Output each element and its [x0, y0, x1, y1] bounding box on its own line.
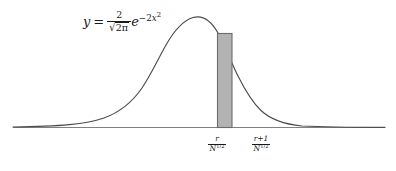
equation-equals: =	[93, 14, 104, 29]
tick-label-left: r N1/2	[198, 135, 236, 153]
tick-right-denominator-exponent: 1/2	[260, 143, 268, 149]
fraction-numerator: 2	[107, 10, 131, 20]
shaded-strip	[218, 34, 233, 128]
tick-right-denominator: N1/2	[252, 145, 271, 153]
equation-fraction: 2 √2π	[107, 10, 131, 34]
gaussian-curve	[13, 17, 385, 128]
tick-left-fraction: r N1/2	[208, 135, 227, 153]
equation-lhs: y	[83, 14, 90, 29]
tick-right-fraction: r+1 N1/2	[252, 135, 271, 153]
tick-left-denominator: N1/2	[208, 145, 227, 153]
fraction-denominator: √2π	[107, 22, 131, 33]
square-root: √2π	[109, 22, 129, 33]
exponent: −2x2	[139, 13, 161, 23]
exponential-base: e	[131, 14, 139, 29]
equation-label: y= 2 √2π e−2x2	[83, 10, 161, 34]
gaussian-strip-figure: y= 2 √2π e−2x2 r N1/2 r+1 N1/2	[0, 0, 396, 171]
exponent-power: 2	[157, 11, 161, 19]
tick-left-denominator-exponent: 1/2	[216, 143, 224, 149]
radicand: 2π	[115, 22, 129, 33]
tick-label-right: r+1 N1/2	[236, 135, 286, 153]
radical-sign-icon: √	[109, 23, 115, 34]
